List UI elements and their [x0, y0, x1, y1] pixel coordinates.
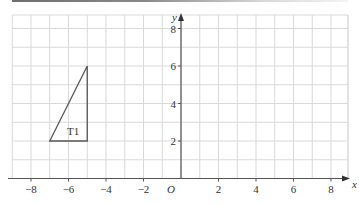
y-tick-label: 6	[171, 60, 177, 72]
origin-label: O	[167, 183, 175, 195]
x-tick-label: 6	[291, 183, 297, 195]
x-tick-label: 2	[216, 183, 222, 195]
y-tick-label: 4	[171, 98, 177, 110]
shape-label: T1	[67, 125, 79, 137]
x-tick-label: 4	[253, 183, 259, 195]
x-tick-label: −4	[100, 183, 112, 195]
x-axis-arrow-icon	[342, 176, 350, 182]
y-axis-label: y	[171, 11, 177, 23]
x-tick-label: 8	[328, 183, 334, 195]
y-tick-label: 2	[171, 135, 177, 147]
x-tick-label: −8	[25, 183, 37, 195]
coordinate-plane: −8−6−4−224682468Oxy T1	[0, 0, 359, 204]
y-tick-label: 8	[171, 23, 177, 35]
x-axis-label: x	[351, 178, 357, 190]
axes	[8, 13, 350, 182]
grid-lines	[12, 15, 348, 179]
y-axis-arrow-icon	[178, 13, 184, 21]
x-tick-label: −6	[63, 183, 75, 195]
tick-labels: −8−6−4−224682468Oxy	[25, 11, 357, 195]
x-tick-label: −2	[138, 183, 150, 195]
